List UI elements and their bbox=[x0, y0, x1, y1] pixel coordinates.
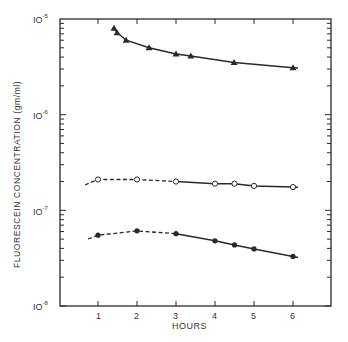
x-tick-label-2: 2 bbox=[134, 311, 139, 321]
y-tick-label-1e-7: IO-7 bbox=[33, 205, 48, 217]
x-axis-label: HOURS bbox=[172, 321, 207, 331]
chart-plot bbox=[0, 0, 348, 342]
axis-ticks bbox=[60, 19, 331, 306]
x-tick-label-1: 1 bbox=[96, 311, 101, 321]
plot-frame bbox=[60, 19, 331, 306]
x-tick-label-3: 3 bbox=[173, 311, 178, 321]
y-tick-label-1e-6: IO-6 bbox=[33, 109, 48, 121]
x-tick-label-5: 5 bbox=[251, 311, 256, 321]
y-tick-label-1e-5: IO-5 bbox=[33, 13, 48, 25]
y-tick-label-1e-8: IO-8 bbox=[33, 300, 48, 312]
data-markers bbox=[95, 25, 296, 259]
x-tick-label-6: 6 bbox=[290, 311, 295, 321]
x-tick-label-4: 4 bbox=[212, 311, 217, 321]
y-axis-label: FLUORESCEIN CONCENTRATION (gm/ml) bbox=[12, 81, 22, 268]
